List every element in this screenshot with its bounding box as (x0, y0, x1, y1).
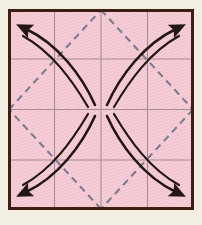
figure-container (0, 0, 202, 225)
rotation-diagram (0, 0, 202, 225)
